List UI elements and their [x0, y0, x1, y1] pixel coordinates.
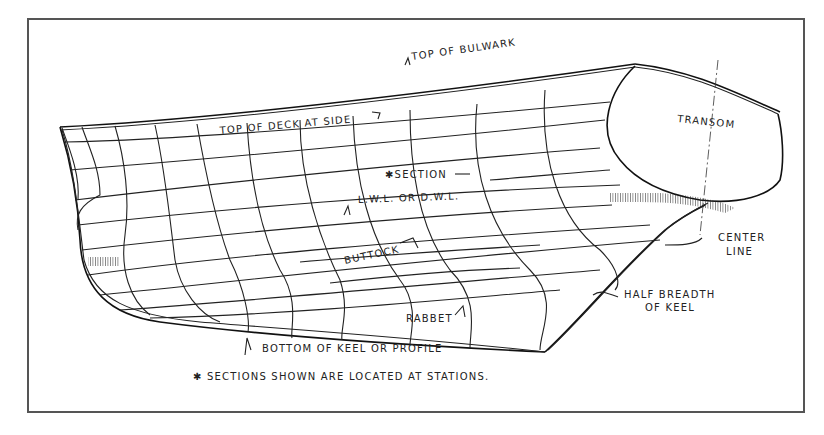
- label-rabbet: RABBET: [406, 313, 453, 324]
- label-half-breadth-2: OF KEEL: [645, 302, 695, 313]
- label-half-breadth-1: HALF BREADTH: [624, 289, 716, 300]
- waterlines: [65, 102, 660, 318]
- label-bottom-of-keel: BOTTOM OF KEEL OR PROFILE: [262, 343, 442, 354]
- transom-outline: [607, 66, 782, 201]
- label-top-of-deck: TOP OF DECK AT SIDE: [218, 114, 352, 137]
- label-center-line-2: LINE: [726, 246, 753, 257]
- label-section: ✱SECTION: [385, 169, 447, 180]
- footnote: ✱ SECTIONS SHOWN ARE LOCATED AT STATIONS…: [193, 371, 489, 382]
- hull-drawing: TOP OF BULWARK TOP OF DECK AT SIDE TRANS…: [0, 0, 824, 435]
- label-transom: TRANSOM: [676, 113, 736, 130]
- sheer-line: [60, 64, 780, 130]
- label-top-of-bulwark: TOP OF BULWARK: [410, 36, 517, 62]
- sections: [62, 90, 618, 350]
- label-center-line-1: CENTER: [718, 232, 765, 243]
- label-lwl: L.W.L. OR D.W.L.: [358, 190, 460, 205]
